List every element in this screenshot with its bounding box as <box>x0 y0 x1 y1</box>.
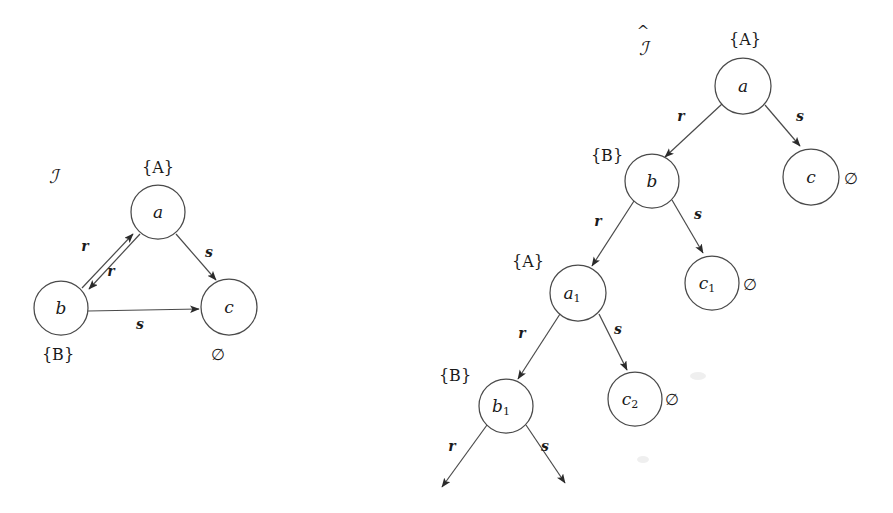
node-a-label: a <box>153 202 163 222</box>
edge-label-a1-b1: r <box>518 325 527 341</box>
edge-b-to-a1 <box>592 201 634 266</box>
node-a-root-set-label: {A} <box>729 30 761 49</box>
edge-label-b1-open-r: r <box>448 438 457 454</box>
edge-b-to-c <box>88 309 199 311</box>
node-c2[interactable]: c2 <box>608 372 662 426</box>
node-a1-set-label: {A} <box>512 252 544 271</box>
right-structure-name: ℐ <box>639 37 651 59</box>
edge-b-to-a <box>82 234 133 288</box>
node-c-label: c <box>224 297 234 317</box>
node-a1[interactable]: a1 <box>550 265 606 321</box>
node-c-set-label: ∅ <box>844 169 858 188</box>
node-c2-set-label: ∅ <box>665 390 679 409</box>
node-a-set-label: {A} <box>142 158 174 177</box>
figure-canvas: ℐ r r s s a {A} b {B <box>0 0 893 513</box>
edge-label-a-b: r <box>677 108 686 124</box>
edge-label-b-a1: r <box>594 213 603 229</box>
edge-b1-open-r <box>442 425 487 487</box>
node-c-set-label: ∅ <box>211 345 225 364</box>
edge-a-to-c <box>765 105 800 146</box>
scan-speck <box>637 456 649 463</box>
node-a-root[interactable]: a <box>715 58 771 114</box>
edge-a-to-b <box>665 104 722 157</box>
edge-a1-to-b1 <box>518 314 560 379</box>
node-b-set-label: {B} <box>591 146 623 165</box>
left-edges <box>82 234 216 311</box>
edge-label-a1-c2: s <box>614 321 622 337</box>
edge-a-to-b <box>89 234 140 289</box>
right-structure-group: ℐ ^ r s r s r s r s <box>439 22 858 487</box>
scan-speck <box>690 372 706 380</box>
node-b[interactable]: b <box>625 154 679 208</box>
node-c[interactable]: c <box>783 149 839 205</box>
node-b1[interactable]: b1 <box>479 379 533 433</box>
node-c1-set-label: ∅ <box>743 275 757 294</box>
node-b-set-label: {B} <box>42 345 74 364</box>
node-b-label: b <box>56 298 67 318</box>
edge-b1-open-s <box>526 425 565 483</box>
edge-label-b1-open-s: s <box>541 438 549 454</box>
transition-system-diagram: ℐ r r s s a {A} b {B <box>0 0 893 513</box>
right-structure-hat-icon: ^ <box>637 22 650 40</box>
edge-label-a-c: s <box>205 244 213 260</box>
left-structure-group: ℐ r r s s a {A} b {B <box>34 158 257 364</box>
edge-label-a-c: s <box>796 108 804 124</box>
node-b[interactable]: b <box>34 281 88 335</box>
edge-label-b-c1: s <box>694 206 702 222</box>
edge-a1-to-c2 <box>599 314 627 370</box>
edge-label-b-c: s <box>136 316 144 332</box>
node-a-root-label: a <box>738 76 748 96</box>
node-b-label: b <box>647 171 658 191</box>
node-c1[interactable]: c1 <box>685 256 739 310</box>
node-a[interactable]: a <box>131 185 185 239</box>
edge-label-b-a: r <box>81 238 90 254</box>
node-b1-set-label: {B} <box>439 366 471 385</box>
node-c[interactable]: c <box>201 279 257 335</box>
node-c-label: c <box>806 167 816 187</box>
edge-label-a-b: r <box>107 263 116 279</box>
left-structure-name: ℐ <box>49 165 61 187</box>
